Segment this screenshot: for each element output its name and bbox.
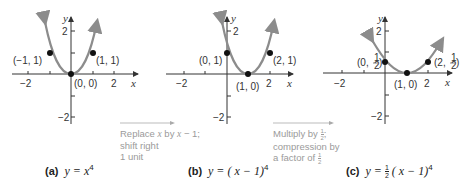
graph-c: (0, 1 2 ) (1, 0) (2, 1 2 ) −2 2 2 −2 y x (323, 12, 459, 124)
point-marker (245, 71, 251, 77)
transition-note-compress: Multiply by 12; compression by a factor … (273, 128, 340, 165)
y-axis-label: y (230, 12, 236, 24)
point-label: (1, 0) (236, 81, 259, 92)
y-tick-label: −2 (371, 111, 383, 122)
y-tick-label: 2 (233, 26, 239, 37)
y-axis-label: y (62, 12, 68, 24)
point-marker (382, 59, 388, 65)
point-marker (224, 50, 230, 56)
point-label-0-half: (0, 1 2 ) (357, 52, 382, 71)
graph-a: (−1, 1) (0, 0) (1, 1) −2 2 2 −2 y x (12, 12, 138, 124)
graph-b: (0, 1) (1, 0) (2, 1) −2 2 2 −2 y x (166, 12, 296, 124)
y-tick-label: −2 (213, 112, 225, 123)
x-axis-label: x (444, 76, 450, 88)
x-axis-label: x (286, 77, 292, 89)
point-marker (404, 70, 410, 76)
transition-note-shift: Replace x by x − 1; shift right 1 unit (120, 128, 200, 162)
curve (372, 40, 442, 73)
point-label: (0, 1) (199, 55, 222, 66)
x-tick-label: −2 (20, 78, 32, 89)
point-label: (1, 0) (394, 79, 417, 90)
x-tick-label: 2 (266, 78, 272, 89)
y-tick-label: 2 (376, 26, 382, 37)
y-tick-label: 2 (62, 26, 68, 37)
y-tick-label: −2 (58, 112, 70, 123)
point-marker (425, 59, 431, 65)
caption-c: (c)y = 12 ( x − 1)4 (346, 163, 433, 179)
point-label: (0, 0) (74, 78, 97, 89)
x-tick-label: 2 (111, 78, 117, 89)
point-label: (−1, 1) (13, 55, 42, 66)
point-marker (68, 71, 74, 77)
caption-b: (b)y = ( x − 1)4 (188, 163, 268, 179)
x-axis-label: x (130, 77, 136, 89)
caption-a: (a)y = x4 (45, 163, 94, 179)
x-tick-label: −2 (334, 78, 346, 89)
svg-text:(2,: (2, (434, 57, 446, 68)
svg-text:): ) (379, 57, 382, 68)
point-label: (1, 1) (96, 55, 119, 66)
point-marker (47, 50, 53, 56)
point-label: (2, 1) (273, 55, 296, 66)
graphs-canvas: (−1, 1) (0, 0) (1, 1) −2 2 2 −2 y x (0, … (0, 0, 467, 187)
curve (222, 22, 274, 74)
point-label-2-half: (2, 1 2 ) (434, 52, 459, 71)
svg-text:(0,: (0, (357, 57, 369, 68)
x-tick-label: −2 (176, 78, 188, 89)
x-tick-label: 2 (424, 78, 430, 89)
y-axis-label: y (377, 12, 383, 24)
svg-text:): ) (456, 57, 459, 68)
